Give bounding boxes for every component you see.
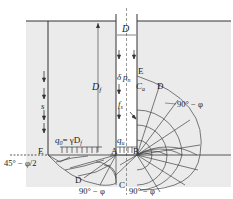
angle-90-bottom-right-label: 90° − φ xyxy=(129,186,155,196)
angle-90-bottom-left-label: 90° − φ xyxy=(79,186,105,196)
point-e-right: E xyxy=(138,66,144,76)
point-d-left: D xyxy=(75,175,82,185)
q0-label: q0= γDf xyxy=(55,135,83,146)
point-c: C xyxy=(119,180,125,190)
settlement-label: s xyxy=(41,101,45,111)
pile-failure-diagram: D Df s δ pn Ca fs qu q0= γDf xyxy=(0,0,233,199)
point-d-right: D xyxy=(157,81,164,91)
diameter-label: D xyxy=(121,23,130,34)
point-e-left: E xyxy=(38,146,44,156)
point-b: B xyxy=(133,146,139,156)
angle-45-label: 45° − φ/2 xyxy=(4,158,36,168)
angle-90-top-right-label: 90° − φ xyxy=(177,99,203,109)
point-a: A xyxy=(111,146,118,156)
